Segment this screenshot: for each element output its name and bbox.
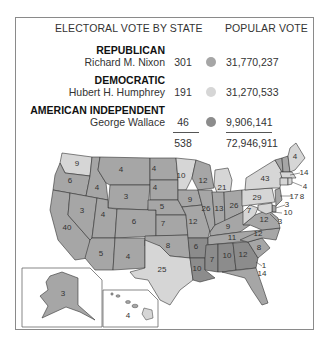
svg-text:12: 12	[254, 229, 263, 238]
svg-text:10: 10	[223, 251, 232, 260]
svg-text:29: 29	[253, 193, 262, 202]
state-de	[272, 205, 276, 212]
svg-text:10: 10	[193, 264, 202, 273]
svg-text:9: 9	[226, 222, 231, 231]
svg-text:4: 4	[101, 210, 106, 219]
svg-text:3: 3	[61, 289, 66, 298]
svg-text:26: 26	[202, 204, 211, 213]
svg-text:9: 9	[75, 159, 80, 168]
svg-text:12: 12	[189, 217, 198, 226]
svg-text:13: 13	[215, 204, 224, 213]
svg-text:4: 4	[126, 252, 131, 261]
svg-text:3: 3	[124, 192, 129, 201]
svg-text:11: 11	[228, 233, 237, 242]
svg-text:14: 14	[300, 168, 309, 177]
svg-text:17: 17	[290, 192, 299, 201]
svg-text:3: 3	[80, 206, 85, 215]
svg-text:4: 4	[152, 164, 157, 173]
state-wy	[108, 185, 150, 210]
state-ma	[280, 172, 296, 178]
svg-text:43: 43	[261, 174, 270, 183]
state-md	[258, 203, 272, 214]
state-ct	[280, 178, 288, 185]
svg-text:6: 6	[132, 217, 137, 226]
svg-text:4: 4	[293, 152, 298, 161]
svg-text:12: 12	[239, 250, 248, 259]
state-mt	[98, 157, 150, 185]
svg-text:4: 4	[153, 183, 158, 192]
svg-text:25: 25	[158, 265, 167, 274]
svg-text:40: 40	[63, 223, 72, 232]
state-nj	[275, 188, 282, 206]
state-ri	[288, 178, 292, 185]
svg-text:4: 4	[119, 165, 124, 174]
svg-text:7: 7	[161, 219, 166, 228]
svg-text:5: 5	[99, 249, 104, 258]
hawaii-inset-frame	[103, 290, 158, 327]
svg-text:6: 6	[68, 176, 73, 185]
svg-text:7: 7	[247, 206, 252, 215]
state-wi	[192, 160, 214, 190]
svg-text:3: 3	[278, 217, 283, 226]
svg-text:8: 8	[166, 241, 171, 250]
svg-text:8: 8	[300, 192, 305, 201]
svg-text:4: 4	[126, 311, 131, 320]
svg-text:26: 26	[230, 201, 239, 210]
svg-text:4: 4	[303, 182, 308, 191]
svg-text:12: 12	[260, 215, 269, 224]
svg-text:9: 9	[188, 195, 193, 204]
svg-text:6: 6	[194, 242, 199, 251]
svg-text:10: 10	[284, 208, 293, 217]
svg-text:10: 10	[177, 171, 186, 180]
svg-text:1: 1	[262, 261, 267, 270]
svg-text:5: 5	[160, 202, 165, 211]
svg-text:7: 7	[210, 255, 215, 264]
svg-text:12: 12	[199, 176, 208, 185]
svg-text:4: 4	[95, 183, 100, 192]
us-electoral-map: 9 6 40 4 3 4 3 4 6 5 4 4 4 5 7 8 25 10 9…	[0, 0, 325, 343]
svg-text:21: 21	[218, 183, 227, 192]
svg-text:8: 8	[257, 243, 262, 252]
svg-text:14: 14	[258, 269, 267, 278]
